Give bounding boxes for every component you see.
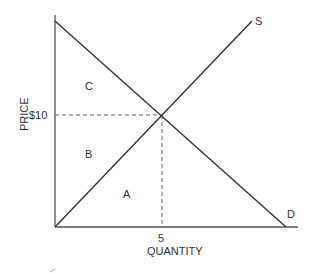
- supply-demand-chart: S D C B A $10 5 QUANTITY PRICE: [0, 0, 316, 274]
- x-axis-title: QUANTITY: [147, 245, 203, 257]
- demand-label: D: [287, 208, 295, 220]
- supply-label: S: [255, 15, 262, 27]
- region-c-label: C: [85, 80, 93, 92]
- stray-mark: [50, 269, 55, 272]
- region-a-label: A: [123, 188, 131, 200]
- y-axis-title: PRICE: [18, 97, 30, 131]
- quantity-tick-label: 5: [158, 232, 164, 244]
- demand-curve: [55, 21, 286, 227]
- supply-curve: [55, 21, 252, 227]
- region-b-label: B: [85, 148, 92, 160]
- price-tick-label: $10: [29, 109, 47, 121]
